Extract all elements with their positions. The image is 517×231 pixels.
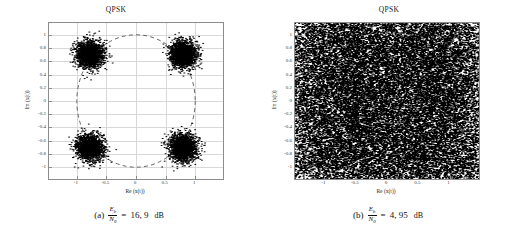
ytick-mark-1 xyxy=(49,48,52,49)
ytick-mark-9 xyxy=(295,154,298,155)
panel-a-axes xyxy=(48,22,224,180)
panel-b-xaxis-label: Re (x(t)) xyxy=(376,188,395,194)
panel-a-caption-value: 16, 9 xyxy=(130,210,148,220)
panel-a-yticklabel-8: -0.6 xyxy=(38,137,46,142)
panel-b-xticklabel-2: 0 xyxy=(385,180,388,185)
ytick-mark-0 xyxy=(49,35,52,36)
panel-b-xticklabel-0: -1 xyxy=(321,180,325,185)
panel-b-ebn0-fraction: Eb N0 xyxy=(368,206,377,225)
panel-a-xticklabel-1: -0.5 xyxy=(101,180,109,185)
panel-b-yticklabel-7: -0.4 xyxy=(284,124,292,129)
panel-a-yticklabel-3: 0.4 xyxy=(40,71,46,76)
xtick-mark-4 xyxy=(195,176,196,179)
ytick-mark-8 xyxy=(49,141,52,142)
panel-a-yaxis-label: Im (x(t)) xyxy=(24,90,30,109)
panel-b-xticklabel-4: 1 xyxy=(447,180,450,185)
ytick-mark-5 xyxy=(49,101,52,102)
xtick-mark-1 xyxy=(106,176,107,179)
panel-b-yticklabel-4: 0.2 xyxy=(286,84,292,89)
panel-a-caption-unit: dB xyxy=(154,211,163,220)
panel-b-yticklabel-5: 0 xyxy=(290,98,293,103)
panel-b-xticklabel-3: 0.5 xyxy=(414,180,420,185)
panel-b-axes xyxy=(294,22,480,180)
panel-b-caption-tag: (b) xyxy=(353,210,364,220)
panel-b: QPSK xyxy=(259,0,517,231)
panel-b-yaxis-label: Im (x(t)) xyxy=(271,90,277,109)
panel-b-caption: (b) Eb N0 = 4, 95 dB xyxy=(259,206,517,225)
panel-a-caption-equals: = xyxy=(121,210,126,220)
xtick-mark-2 xyxy=(136,176,137,179)
ytick-mark-1 xyxy=(295,48,298,49)
panel-b-yticklabel-8: -0.6 xyxy=(284,137,292,142)
panel-a-xticklabel-4: 1 xyxy=(193,180,196,185)
panel-b-scatter-points xyxy=(295,23,479,179)
panel-a-ebn0-fraction: Eb N0 xyxy=(108,206,117,225)
ytick-mark-0 xyxy=(295,35,298,36)
panel-b-yticklabel-9: -0.8 xyxy=(284,150,292,155)
panel-a-eb-subscript: b xyxy=(114,209,116,214)
ytick-mark-4 xyxy=(49,88,52,89)
xtick-mark-0 xyxy=(77,176,78,179)
panel-a-yticklabel-7: -0.4 xyxy=(38,124,46,129)
panel-a-yticklabel-10: -1 xyxy=(42,164,46,169)
panel-a-xticklabel-3: 0.5 xyxy=(161,180,167,185)
ytick-mark-3 xyxy=(49,75,52,76)
ytick-mark-9 xyxy=(49,154,52,155)
ytick-mark-6 xyxy=(295,114,298,115)
panel-a-caption-tag: (a) xyxy=(94,210,104,220)
panel-b-n0-subscript: 0 xyxy=(373,219,375,224)
xtick-mark-2 xyxy=(387,176,388,179)
ytick-mark-3 xyxy=(295,75,298,76)
panel-b-caption-equals: = xyxy=(381,210,386,220)
panel-b-yticklabel-0: 1 xyxy=(290,31,293,36)
panel-a-xticklabel-0: -1 xyxy=(74,180,78,185)
panel-a-yticklabel-2: 0.6 xyxy=(40,58,46,63)
panel-b-caption-unit: dB xyxy=(414,211,423,220)
panel-a-yticklabel-9: -0.8 xyxy=(38,150,46,155)
xtick-mark-3 xyxy=(418,176,419,179)
xtick-mark-0 xyxy=(324,176,325,179)
panel-b-caption-value: 4, 95 xyxy=(390,210,408,220)
panel-a-title: QPSK xyxy=(10,5,222,14)
panel-b-yticklabel-2: 0.6 xyxy=(286,58,292,63)
panel-a-yticklabel-4: 0.2 xyxy=(40,84,46,89)
ytick-mark-4 xyxy=(295,88,298,89)
panel-b-yticklabel-1: 0.8 xyxy=(286,45,292,50)
xtick-mark-4 xyxy=(450,176,451,179)
panel-b-xticklabel-1: -0.5 xyxy=(351,180,359,185)
panel-a-yticklabel-1: 0.8 xyxy=(40,45,46,50)
qpsk-constellation-figure: QPSK xyxy=(0,0,517,231)
ytick-mark-2 xyxy=(295,61,298,62)
ytick-mark-10 xyxy=(49,167,52,168)
panel-b-yticklabel-3: 0.4 xyxy=(286,71,292,76)
panel-b-yticklabel-6: -0.2 xyxy=(284,111,292,116)
panel-a-caption: (a) Eb N0 = 16, 9 dB xyxy=(0,206,258,225)
panel-a-yticklabel-5: 0 xyxy=(44,98,47,103)
panel-a-xticklabel-2: 0 xyxy=(134,180,137,185)
ytick-mark-5 xyxy=(295,101,298,102)
ytick-mark-8 xyxy=(295,141,298,142)
panel-b-eb-subscript: b xyxy=(373,209,375,214)
ytick-mark-7 xyxy=(295,127,298,128)
ytick-mark-7 xyxy=(49,127,52,128)
panel-a-yticklabel-0: 1 xyxy=(44,31,47,36)
panel-a-scatter-points xyxy=(49,23,223,179)
panel-a-n0-subscript: 0 xyxy=(114,219,116,224)
panel-b-yticklabel-10: -1 xyxy=(288,164,292,169)
panel-b-title: QPSK xyxy=(283,5,495,14)
xtick-mark-3 xyxy=(166,176,167,179)
xtick-mark-1 xyxy=(356,176,357,179)
ytick-mark-6 xyxy=(49,114,52,115)
panel-a-xaxis-label: Re (x(t)) xyxy=(125,188,144,194)
panel-a: QPSK xyxy=(0,0,258,231)
ytick-mark-10 xyxy=(295,167,298,168)
panel-a-yticklabel-6: -0.2 xyxy=(38,111,46,116)
ytick-mark-2 xyxy=(49,61,52,62)
